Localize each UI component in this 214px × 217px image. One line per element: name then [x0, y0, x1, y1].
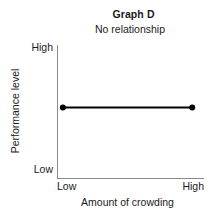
series-no-relationship	[60, 105, 195, 111]
data-series-svg	[57, 45, 204, 178]
chart-subtitle: No relationship	[50, 23, 210, 36]
x-axis-line	[57, 178, 204, 179]
data-point-marker-start	[60, 105, 66, 111]
y-axis-title: Performance level	[9, 51, 21, 171]
plot-area	[57, 45, 204, 178]
x-tick-label-low: Low	[57, 180, 76, 192]
chart-title: Graph D	[57, 8, 210, 21]
x-tick-label-high: High	[182, 180, 204, 192]
data-point-marker-end	[189, 105, 195, 111]
x-axis-title: Amount of crowding	[45, 196, 210, 208]
graph-d-figure: Graph D No relationship High Low Perform…	[0, 0, 214, 217]
